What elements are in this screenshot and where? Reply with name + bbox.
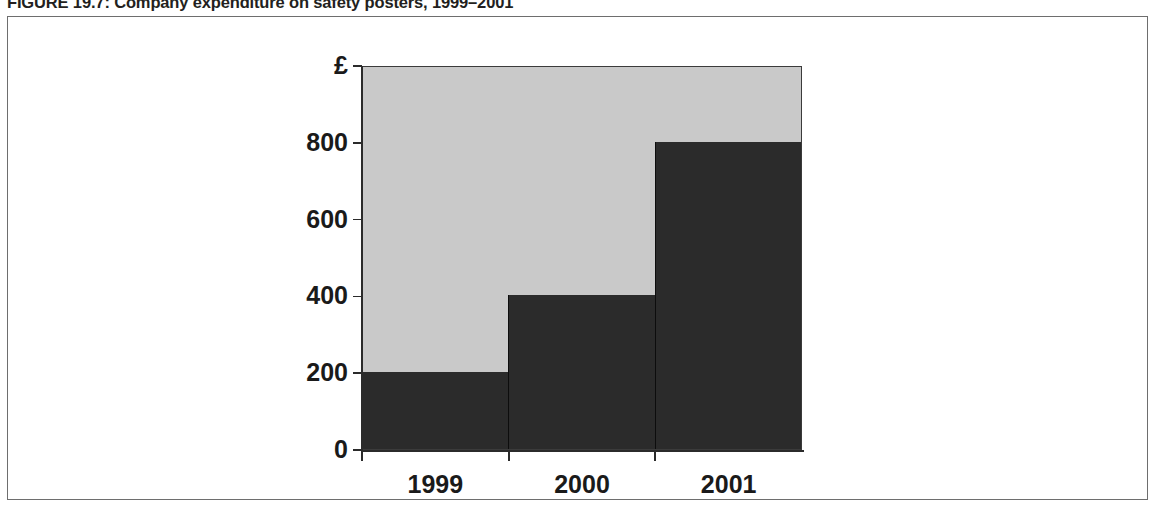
bar-1999 xyxy=(363,372,508,449)
y-axis-labels: £ 800 600 400 200 0 xyxy=(236,17,348,501)
bar-2000 xyxy=(508,295,654,449)
x-tick-start xyxy=(361,450,363,461)
y-axis-unit-label: £ xyxy=(248,53,348,78)
y-tick-600 xyxy=(353,219,362,221)
x-tick-label-1999: 1999 xyxy=(362,469,509,503)
x-axis-line xyxy=(361,450,804,452)
y-tick-label-0: 0 xyxy=(248,437,348,462)
x-tick-2 xyxy=(654,450,656,461)
y-tick-200 xyxy=(353,372,362,374)
y-tick-top xyxy=(353,65,362,67)
bar-chart: £ 800 600 400 200 0 1999 2000 2001 xyxy=(8,17,1149,501)
y-tick-400 xyxy=(353,296,362,298)
y-tick-label-200: 200 xyxy=(248,360,348,385)
y-tick-label-800: 800 xyxy=(248,130,348,155)
figure-caption: FIGURE 19.7: Company expenditure on safe… xyxy=(7,0,1107,13)
x-tick-label-2000: 2000 xyxy=(509,469,656,503)
bar-2001 xyxy=(655,142,801,449)
x-tick-1 xyxy=(508,450,510,461)
y-tick-label-600: 600 xyxy=(248,207,348,232)
y-tick-800 xyxy=(353,142,362,144)
x-tick-label-2001: 2001 xyxy=(655,469,802,503)
figure-frame: £ 800 600 400 200 0 1999 2000 2001 xyxy=(7,16,1148,500)
x-axis-labels: 1999 2000 2001 xyxy=(362,469,802,503)
plot-area xyxy=(362,66,802,450)
y-tick-label-400: 400 xyxy=(248,283,348,308)
y-axis-line xyxy=(361,66,363,451)
bar-series xyxy=(363,67,801,449)
